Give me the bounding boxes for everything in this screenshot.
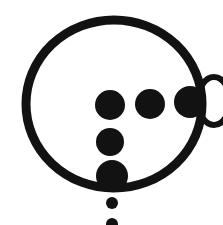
dot-small-below-circle-icon <box>106 197 118 209</box>
glyph-canvas: A thick hand-drawn black circle outline … <box>0 0 223 225</box>
dot-right-edge-icon <box>174 86 206 118</box>
dot-upper-middle-icon <box>135 89 165 119</box>
dot-middle-column-icon <box>96 128 124 156</box>
dot-lower-column-icon <box>96 160 128 192</box>
glyph-artwork <box>0 0 223 225</box>
dot-upper-left-icon <box>95 90 125 120</box>
